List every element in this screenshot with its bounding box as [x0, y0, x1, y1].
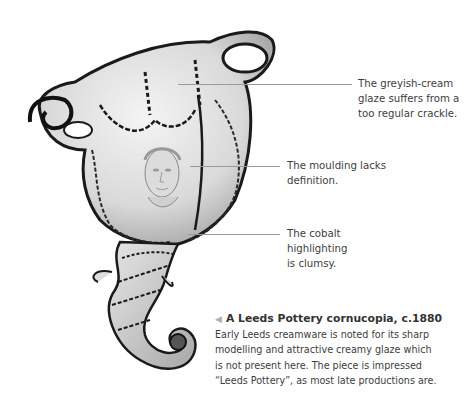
caption-body-line: modelling and attractive creamy glaze wh… — [215, 342, 464, 357]
annotation-line: The greyish-cream — [358, 76, 459, 91]
leader-line-cobalt — [188, 234, 280, 235]
annotation-cobalt: The cobalt highlighting is clumsy. — [287, 226, 348, 271]
annotation-line: is clumsy. — [287, 256, 348, 271]
caption-body-line: “Leeds Pottery”, as most late production… — [215, 373, 464, 388]
pointer-arrow-icon: ◀ — [215, 314, 222, 324]
figure-caption: ◀A Leeds Pottery cornucopia, c.1880 Earl… — [215, 311, 464, 388]
caption-body-line: is not present here. The piece is impres… — [215, 358, 464, 373]
annotation-line: too regular crackle. — [358, 106, 459, 121]
leader-line-moulding — [190, 166, 280, 167]
annotation-moulding: The moulding lacks definition. — [287, 158, 386, 188]
caption-body-line: Early Leeds creamware is noted for its s… — [215, 327, 464, 342]
caption-title-row: ◀A Leeds Pottery cornucopia, c.1880 — [215, 311, 464, 327]
annotation-line: glaze suffers from a — [358, 91, 459, 106]
annotation-line: The cobalt — [287, 226, 348, 241]
annotation-line: highlighting — [287, 241, 348, 256]
annotation-glaze: The greyish-cream glaze suffers from a t… — [358, 76, 459, 121]
annotation-line: The moulding lacks — [287, 158, 386, 173]
annotation-line: definition. — [287, 173, 386, 188]
leader-line-glaze — [178, 84, 352, 85]
caption-title: A Leeds Pottery cornucopia, c.1880 — [226, 312, 442, 325]
